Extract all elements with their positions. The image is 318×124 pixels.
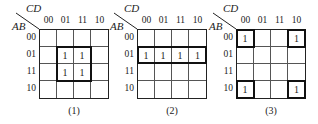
cell <box>57 30 74 47</box>
cell <box>138 64 155 81</box>
karnaugh-map-3: CD AB 00 01 11 10 00 01 11 10 1 1 1 1 (3… <box>197 0 301 124</box>
cell <box>138 81 155 98</box>
karnaugh-map-1: CD AB 00 01 11 10 00 01 11 10 1 1 1 1 (1… <box>0 0 104 124</box>
cell: 1 <box>237 81 254 98</box>
cell: 1 <box>57 64 74 81</box>
cell <box>40 30 57 47</box>
map-caption: (3) <box>251 105 291 116</box>
cell <box>155 81 172 98</box>
cell <box>288 47 305 64</box>
cell <box>172 30 189 47</box>
col-label: 10 <box>288 15 305 25</box>
row-label: 00 <box>219 32 233 42</box>
col-label: 00 <box>40 15 57 25</box>
cell <box>155 64 172 81</box>
row-variable-label: AB <box>110 20 123 32</box>
row-label: 01 <box>22 49 36 59</box>
row-variable-label: AB <box>12 20 25 32</box>
cell <box>254 64 271 81</box>
row-label: 00 <box>22 32 36 42</box>
map-caption: (1) <box>54 105 94 116</box>
karnaugh-map-2: CD AB 00 01 11 10 00 01 11 10 1 1 1 1 (2… <box>98 0 202 124</box>
cell <box>138 30 155 47</box>
cell <box>271 81 288 98</box>
cell <box>254 47 271 64</box>
row-label: 00 <box>120 32 134 42</box>
cell <box>237 47 254 64</box>
cell <box>254 81 271 98</box>
cell: 1 <box>172 47 189 64</box>
cell <box>172 64 189 81</box>
cell <box>237 64 254 81</box>
col-label: 11 <box>271 15 288 25</box>
col-label: 01 <box>155 15 172 25</box>
col-label: 11 <box>74 15 91 25</box>
cell <box>254 30 271 47</box>
cell <box>40 64 57 81</box>
col-label: 01 <box>57 15 74 25</box>
cell: 1 <box>138 47 155 64</box>
cell <box>271 47 288 64</box>
col-label: 11 <box>172 15 189 25</box>
cell <box>155 30 172 47</box>
cell <box>271 64 288 81</box>
row-label: 10 <box>120 83 134 93</box>
col-label: 00 <box>237 15 254 25</box>
row-label: 11 <box>120 66 134 76</box>
cell <box>74 81 91 98</box>
col-label: 01 <box>254 15 271 25</box>
col-variable-label: CD <box>26 2 41 14</box>
cell: 1 <box>74 47 91 64</box>
row-label: 01 <box>219 49 233 59</box>
row-label: 10 <box>219 83 233 93</box>
cell <box>288 64 305 81</box>
cell <box>40 81 57 98</box>
cell <box>74 30 91 47</box>
row-variable-label: AB <box>209 20 222 32</box>
cell: 1 <box>74 64 91 81</box>
row-label: 10 <box>22 83 36 93</box>
cell: 1 <box>57 47 74 64</box>
col-variable-label: CD <box>124 2 139 14</box>
row-label: 01 <box>120 49 134 59</box>
cell <box>271 30 288 47</box>
col-variable-label: CD <box>223 2 238 14</box>
row-label: 11 <box>219 66 233 76</box>
cell <box>40 47 57 64</box>
map-caption: (2) <box>152 105 192 116</box>
cell <box>57 81 74 98</box>
cell: 1 <box>237 30 254 47</box>
kmap-grid: 1 1 1 1 <box>236 29 306 99</box>
row-label: 11 <box>22 66 36 76</box>
cell: 1 <box>288 30 305 47</box>
cell <box>172 81 189 98</box>
cell: 1 <box>155 47 172 64</box>
col-label: 00 <box>138 15 155 25</box>
cell: 1 <box>288 81 305 98</box>
